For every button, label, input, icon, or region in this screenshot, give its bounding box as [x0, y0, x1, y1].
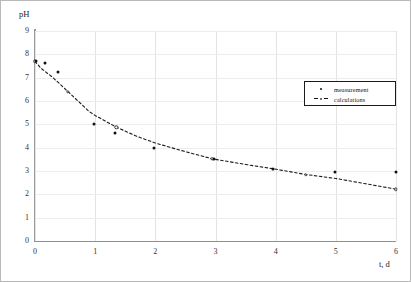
gridline-horizontal [35, 148, 396, 149]
measurement-point [114, 132, 117, 135]
calculation-point [394, 187, 397, 190]
gridline-horizontal [35, 218, 396, 219]
calculation-point [304, 173, 307, 176]
x-axis-label: t, d [379, 259, 390, 269]
measurement-point [35, 60, 38, 63]
x-tick-label: 5 [326, 248, 346, 256]
measurement-point [333, 171, 336, 174]
gridline-vertical [216, 31, 217, 241]
y-tick-label: 4 [7, 144, 29, 152]
x-tick-label: 0 [25, 248, 45, 256]
x-tick-label: 6 [386, 248, 406, 256]
x-axis-line [34, 241, 396, 242]
measurement-point [271, 167, 274, 170]
measurement-point [213, 157, 216, 160]
legend-dashed-circle-icon [308, 98, 334, 101]
y-tick-label: 7 [7, 74, 29, 82]
x-tick-label: 4 [266, 248, 286, 256]
legend-item-measurement: measurement [308, 84, 392, 94]
x-tick-label: 3 [206, 248, 226, 256]
gridline-horizontal [35, 54, 396, 55]
measurement-point [44, 61, 47, 64]
gridline-horizontal [35, 124, 396, 125]
y-tick-label: 8 [7, 50, 29, 58]
calculation-point [66, 90, 69, 93]
gridline-vertical [155, 31, 156, 241]
x-tick-label: 1 [85, 248, 105, 256]
measurement-point [153, 146, 156, 149]
gridline-horizontal [35, 78, 396, 79]
gridline-horizontal [35, 194, 396, 195]
y-tick-label: 6 [7, 97, 29, 105]
y-axis-label: pH [19, 9, 29, 19]
y-tick-label: 1 [7, 214, 29, 222]
gridline-horizontal [35, 171, 396, 172]
y-tick-label: 3 [7, 167, 29, 175]
legend-label-measurement: measurement [334, 86, 369, 93]
y-tick-label: 0 [7, 237, 29, 245]
measurement-point [56, 70, 59, 73]
gridline-vertical [396, 31, 397, 241]
chart-legend: measurement calculations [304, 81, 396, 106]
y-tick-label: 5 [7, 120, 29, 128]
gridline-horizontal [35, 31, 396, 32]
plot-area [35, 31, 396, 241]
measurement-point [92, 123, 95, 126]
gridline-vertical [276, 31, 277, 241]
measurement-point [395, 171, 398, 174]
gridline-vertical [336, 31, 337, 241]
legend-item-calculations: calculations [308, 94, 392, 104]
calculation-point [115, 125, 118, 128]
x-tick-label: 2 [145, 248, 165, 256]
y-tick-label: 2 [7, 190, 29, 198]
legend-label-calculations: calculations [334, 96, 365, 103]
gridline-vertical [95, 31, 96, 241]
legend-dot-icon [308, 88, 334, 91]
y-tick-label: 9 [7, 27, 29, 35]
chart-figure: pH t, d 0123456789 0123456 measurement c… [0, 0, 411, 282]
